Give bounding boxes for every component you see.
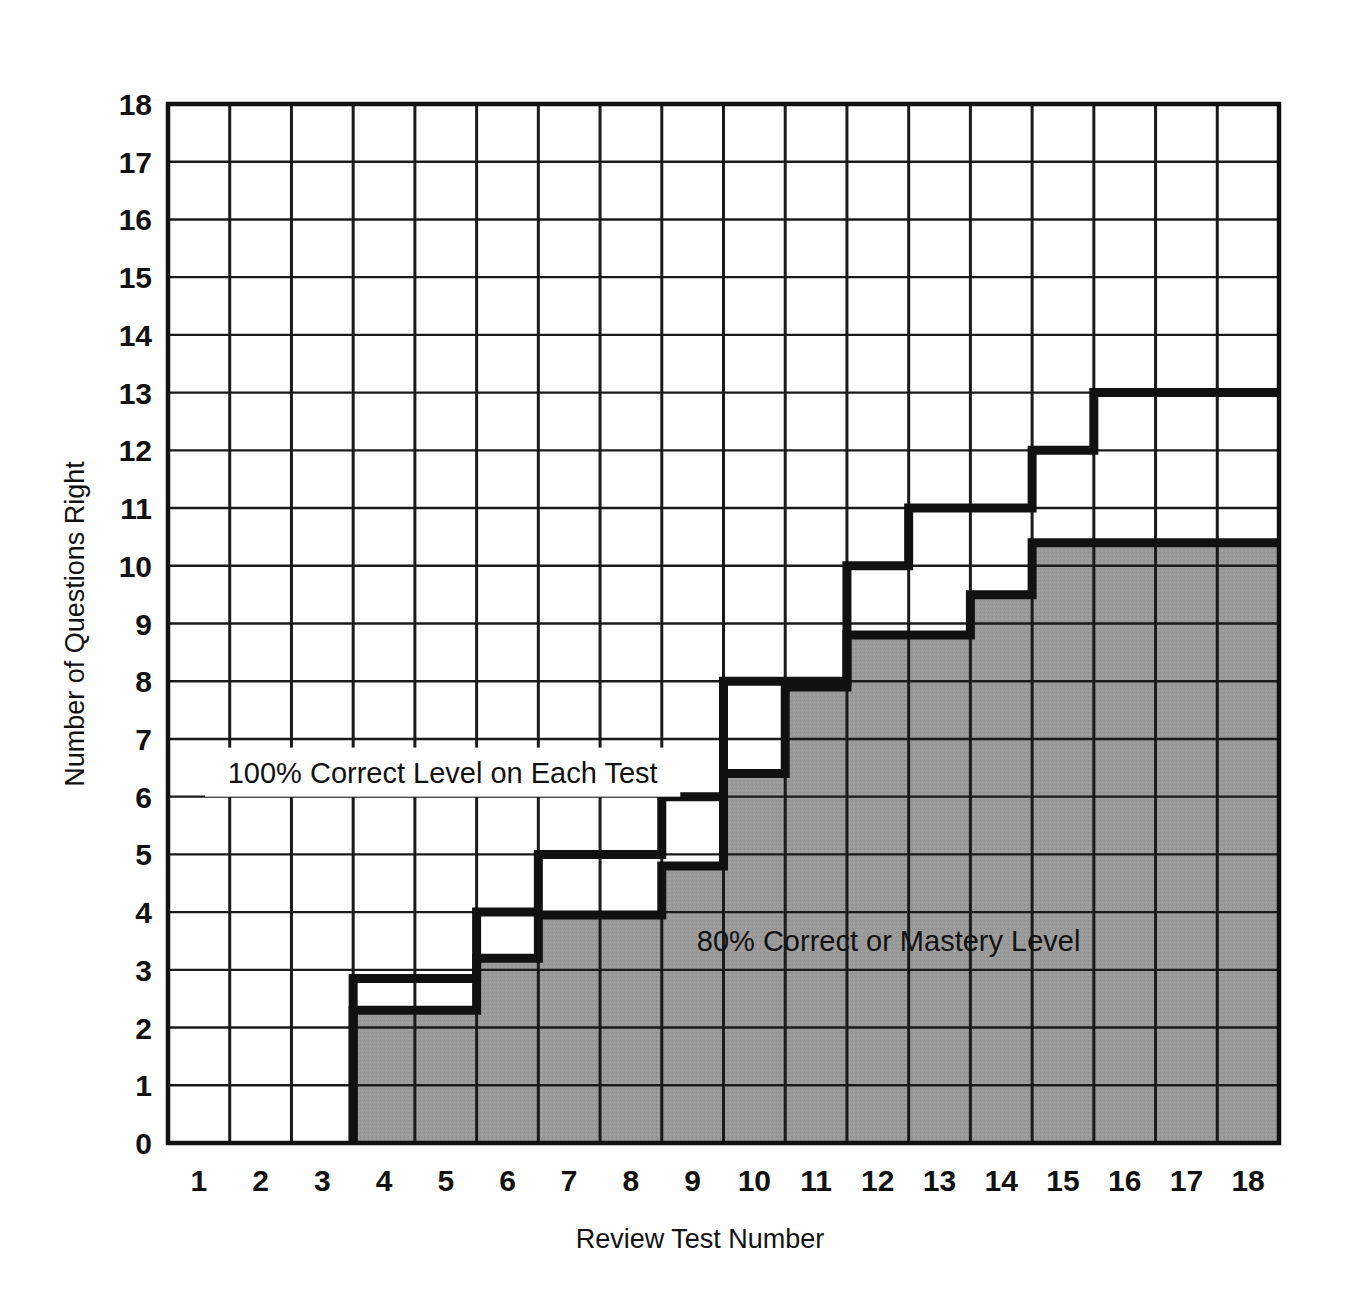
y-axis-tick-label: 14 <box>119 319 153 352</box>
x-axis-tick-label: 2 <box>252 1164 269 1197</box>
y-axis-tick-label: 3 <box>135 954 152 987</box>
y-axis-tick-label: 12 <box>119 434 152 467</box>
x-axis-tick-label: 9 <box>684 1164 701 1197</box>
x-axis-tick-label: 17 <box>1170 1164 1203 1197</box>
x-axis-tick-label: 8 <box>623 1164 640 1197</box>
x-axis-tick-label: 18 <box>1231 1164 1264 1197</box>
y-axis-tick-label: 11 <box>120 492 152 525</box>
review-test-progress-chart: 0123456789101112131415161718 12345678910… <box>0 0 1349 1307</box>
y-axis-tick-label: 8 <box>135 665 152 698</box>
y-axis-tick-label: 17 <box>119 146 152 179</box>
y-axis-title: Number of Questions Right <box>60 461 90 787</box>
y-axis-tick-label: 18 <box>119 88 152 121</box>
y-axis-tick-label: 2 <box>135 1012 152 1045</box>
x-axis-tick-label: 11 <box>800 1164 832 1197</box>
x-axis-tick-label: 16 <box>1108 1164 1141 1197</box>
x-axis-tick-label: 4 <box>376 1164 393 1197</box>
x-axis-tick-label: 3 <box>314 1164 331 1197</box>
y-axis-tick-label: 13 <box>119 377 152 410</box>
x-axis-tick-label: 14 <box>985 1164 1019 1197</box>
y-axis-tick-label: 6 <box>135 781 152 814</box>
y-axis-tick-label: 7 <box>135 723 152 756</box>
annotation-80-percent: 80% Correct or Mastery Level <box>697 925 1081 957</box>
x-axis-title: Review Test Number <box>576 1224 825 1254</box>
y-axis-tick-label: 1 <box>135 1069 152 1102</box>
y-axis-tick-label: 15 <box>119 261 152 294</box>
annotation-100-percent: 100% Correct Level on Each Test <box>228 757 658 789</box>
x-axis-tick-label: 5 <box>437 1164 454 1197</box>
y-axis-tick-label: 9 <box>135 608 152 641</box>
y-axis-tick-label: 10 <box>119 550 152 583</box>
x-axis-tick-label: 12 <box>861 1164 894 1197</box>
x-axis-tick-label: 6 <box>499 1164 516 1197</box>
y-axis-tick-label: 5 <box>135 838 152 871</box>
x-axis-tick-label: 7 <box>561 1164 578 1197</box>
x-axis-tick-label: 10 <box>738 1164 771 1197</box>
x-axis-tick-label: 13 <box>923 1164 956 1197</box>
x-axis-tick-label: 1 <box>191 1164 208 1197</box>
y-axis-tick-label: 4 <box>135 896 152 929</box>
y-axis-tick-label: 16 <box>119 203 152 236</box>
y-axis-tick-label: 0 <box>135 1127 152 1160</box>
chart-root: 0123456789101112131415161718 12345678910… <box>0 0 1349 1307</box>
x-axis-tick-label: 15 <box>1046 1164 1079 1197</box>
